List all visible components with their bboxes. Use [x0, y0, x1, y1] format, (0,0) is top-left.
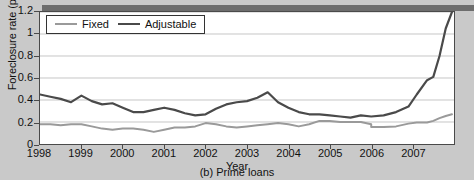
y-tick-label: 0.8 [0, 49, 33, 61]
y-tick-label: 0.4 [0, 93, 33, 105]
legend-label-adjustable: Adjustable [145, 18, 196, 30]
legend-swatch-adjustable-icon [118, 23, 140, 25]
x-tick-mark [81, 145, 82, 149]
x-tick-mark [372, 145, 373, 149]
figure-prime-loans: Foreclosure rate (percent) 00.20.40.60.8… [0, 0, 474, 180]
y-tick-label: 0.6 [0, 71, 33, 83]
y-tick-label: 0.2 [0, 116, 33, 128]
legend-entry-fixed: Fixed [55, 18, 109, 30]
y-tick-label: 1.2 [0, 4, 33, 16]
x-tick-mark [289, 145, 290, 149]
x-tick-mark [247, 145, 248, 149]
x-tick-mark [330, 145, 331, 149]
y-tick-label: 1 [0, 26, 33, 38]
legend-swatch-fixed-icon [55, 23, 77, 25]
series-line-fixed [40, 114, 452, 132]
figure-caption: (b) Prime loans [0, 166, 474, 178]
legend-label-fixed: Fixed [82, 18, 109, 30]
x-tick-label: 1998 [27, 147, 51, 159]
chart-legend: Fixed Adjustable [46, 15, 205, 34]
y-tick-mark [34, 145, 39, 146]
legend-entry-adjustable: Adjustable [118, 18, 196, 30]
x-tick-mark [413, 145, 414, 149]
x-tick-mark [164, 145, 165, 149]
x-tick-mark [122, 145, 123, 149]
x-tick-mark [205, 145, 206, 149]
